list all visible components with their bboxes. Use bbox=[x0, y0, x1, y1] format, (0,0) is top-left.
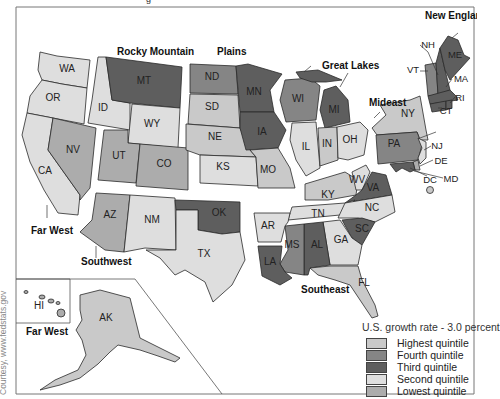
label-MN: MN bbox=[246, 86, 262, 97]
label-KY: KY bbox=[321, 189, 335, 200]
legend-swatch bbox=[366, 362, 387, 373]
label-PA: PA bbox=[388, 138, 401, 149]
legend-item-fourth: Fourth quintile bbox=[366, 349, 464, 361]
label-IN: IN bbox=[322, 138, 332, 149]
label-MT: MT bbox=[137, 75, 151, 86]
label-CA: CA bbox=[38, 165, 52, 176]
label-NC: NC bbox=[365, 202, 379, 213]
label-MA: MA bbox=[454, 73, 469, 84]
legend-label: Lowest quintile bbox=[397, 385, 466, 397]
legend-label: Third quintile bbox=[397, 361, 457, 373]
label-HI: HI bbox=[34, 300, 44, 311]
label-VA: VA bbox=[367, 182, 380, 193]
region-far-west-inset: Far West bbox=[26, 326, 69, 337]
region-southeast: Southeast bbox=[301, 284, 350, 295]
label-WV: WV bbox=[349, 174, 365, 185]
legend-swatch bbox=[366, 386, 387, 397]
label-AK: AK bbox=[99, 312, 113, 323]
label-NY: NY bbox=[401, 108, 415, 119]
legend-label: Highest quintile bbox=[397, 337, 469, 349]
label-WA: WA bbox=[59, 63, 75, 74]
label-RI: RI bbox=[455, 92, 465, 103]
region-southwest: Southwest bbox=[81, 256, 132, 267]
state-MD bbox=[390, 162, 415, 172]
label-MD: MD bbox=[444, 173, 459, 184]
state-HI bbox=[24, 291, 65, 318]
label-NM: NM bbox=[144, 214, 160, 225]
state-AK bbox=[40, 290, 180, 390]
label-MS: MS bbox=[285, 239, 300, 250]
label-ID: ID bbox=[98, 102, 108, 113]
label-KS: KS bbox=[216, 161, 230, 172]
region-new-england: New England bbox=[425, 10, 477, 21]
label-SD: SD bbox=[205, 101, 219, 112]
legend-label: Fourth quintile bbox=[397, 349, 464, 361]
credit-text: Courtesy, www.fedstats.gov bbox=[0, 291, 8, 395]
label-AL: AL bbox=[311, 239, 324, 250]
region-mideast: Mideast bbox=[369, 97, 407, 108]
label-TX: TX bbox=[198, 248, 211, 259]
label-NE: NE bbox=[208, 131, 222, 142]
legend-swatch bbox=[366, 350, 387, 361]
label-DE: DE bbox=[434, 155, 447, 166]
label-ND: ND bbox=[205, 71, 219, 82]
label-OR: OR bbox=[46, 92, 61, 103]
label-IA: IA bbox=[257, 126, 267, 137]
label-AZ: AZ bbox=[104, 209, 117, 220]
legend-swatch bbox=[366, 374, 387, 385]
legend-label: Second quintile bbox=[397, 373, 469, 385]
label-WI: WI bbox=[292, 93, 304, 104]
label-SC: SC bbox=[355, 223, 369, 234]
label-TN: TN bbox=[311, 208, 324, 219]
legend-item-third: Third quintile bbox=[366, 361, 457, 373]
legend-swatch bbox=[366, 338, 387, 349]
label-LA: LA bbox=[264, 256, 277, 267]
label-NJ: NJ bbox=[431, 140, 443, 151]
state-AZ bbox=[80, 193, 130, 252]
legend-title: U.S. growth rate - 3.0 percent bbox=[362, 321, 500, 333]
legend-item-highest: Highest quintile bbox=[366, 337, 469, 349]
label-IL: IL bbox=[302, 141, 311, 152]
region-plains: Plains bbox=[217, 46, 247, 57]
region-far-west: Far West bbox=[31, 225, 74, 236]
region-great-lakes: Great Lakes bbox=[322, 60, 380, 71]
legend-item-second: Second quintile bbox=[366, 373, 469, 385]
region-rocky-mountain: Rocky Mountain bbox=[117, 46, 194, 57]
label-NV: NV bbox=[66, 144, 80, 155]
label-VT: VT bbox=[407, 64, 419, 75]
label-OK: OK bbox=[212, 207, 227, 218]
label-OH: OH bbox=[343, 134, 358, 145]
label-GA: GA bbox=[334, 234, 349, 245]
label-CO: CO bbox=[157, 158, 172, 169]
label-MO: MO bbox=[260, 164, 276, 175]
label-FL: FL bbox=[358, 277, 370, 288]
label-AR: AR bbox=[261, 220, 275, 231]
legend-item-lowest: Lowest quintile bbox=[366, 385, 466, 397]
label-WY: WY bbox=[144, 118, 160, 129]
label-CT: CT bbox=[440, 105, 453, 116]
cropped-title-fragment: g bbox=[146, 0, 151, 4]
state-DC bbox=[427, 187, 434, 194]
label-UT: UT bbox=[112, 150, 125, 161]
label-MI: MI bbox=[328, 104, 339, 115]
label-ME: ME bbox=[448, 49, 462, 60]
